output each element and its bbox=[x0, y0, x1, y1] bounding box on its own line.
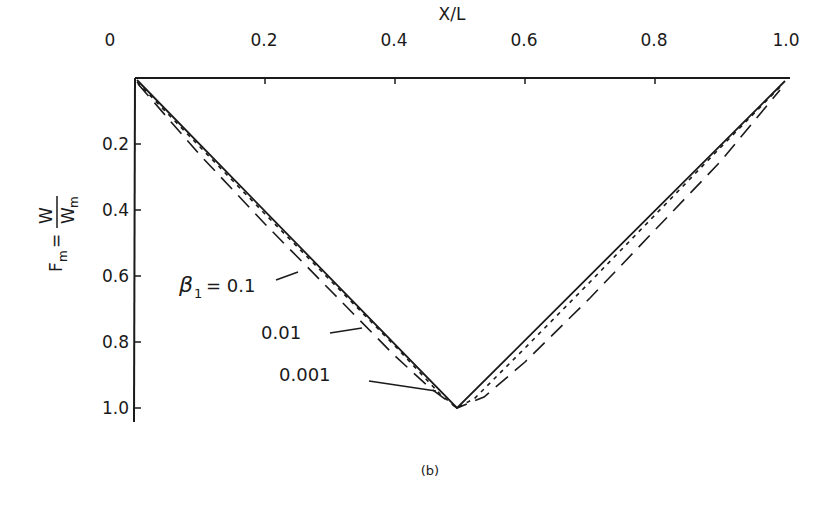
svg-text:1: 1 bbox=[194, 286, 202, 301]
svg-text:W: W bbox=[58, 207, 78, 224]
x-tick-label: 1.0 bbox=[772, 30, 799, 50]
legend-item-beta-0.01: 0.01 bbox=[261, 322, 362, 343]
svg-text:W: W bbox=[36, 207, 56, 224]
x-tick-label: 0.6 bbox=[510, 30, 537, 50]
svg-text:0.01: 0.01 bbox=[261, 322, 301, 343]
x-axis-title: X/L bbox=[439, 4, 466, 24]
x-axis: 0 0.2 0.4 0.6 0.8 1.0 bbox=[105, 30, 800, 84]
svg-text:F: F bbox=[46, 262, 66, 272]
svg-text:= 0.1: = 0.1 bbox=[206, 275, 255, 296]
svg-text:m: m bbox=[56, 250, 70, 262]
series-beta-0.1 bbox=[138, 84, 780, 408]
series-beta-0.001 bbox=[137, 80, 785, 408]
x-tick-label: 0.8 bbox=[640, 30, 667, 50]
legend: β 1 = 0.1 0.01 0.001 bbox=[178, 272, 436, 391]
svg-text:=: = bbox=[46, 234, 66, 248]
svg-text:m: m bbox=[67, 196, 81, 208]
y-tick-label: 0.2 bbox=[102, 134, 129, 154]
x-tick-label: 0 bbox=[105, 30, 116, 50]
y-axis-title: F m = W W m bbox=[36, 196, 81, 272]
legend-item-beta-0.001: 0.001 bbox=[279, 364, 436, 391]
y-tick-label: 1.0 bbox=[102, 398, 129, 418]
y-axis: 0.2 0.4 0.6 0.8 1.0 bbox=[102, 78, 141, 422]
y-tick-label: 0.8 bbox=[102, 332, 129, 352]
series-curves bbox=[137, 80, 785, 408]
y-tick-label: 0.6 bbox=[102, 266, 129, 286]
figure-caption: (b) bbox=[421, 463, 439, 478]
x-tick-label: 0.2 bbox=[250, 30, 277, 50]
y-tick-label: 0.4 bbox=[102, 200, 129, 220]
deflection-chart: X/L 0 0.2 0.4 0.6 0.8 1.0 0.2 0.4 0.6 0.… bbox=[0, 0, 835, 510]
x-tick-label: 0.4 bbox=[380, 30, 407, 50]
svg-text:0.001: 0.001 bbox=[279, 364, 331, 385]
series-beta-0.01 bbox=[137, 82, 783, 408]
svg-text:β: β bbox=[178, 272, 193, 297]
legend-item-beta-0.1: β 1 = 0.1 bbox=[178, 272, 298, 301]
